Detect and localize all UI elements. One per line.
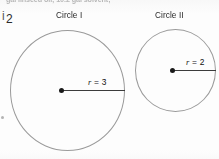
- circle-1-radius-equals: =: [91, 77, 101, 87]
- circle-2-caption: Circle II: [155, 11, 184, 20]
- circle-1-radius-label: r = 3: [88, 77, 106, 87]
- clipped-header-text: gal linseed oil; 10.2 gal solvent;: [6, 0, 110, 4]
- circle-2-radius-label: r = 2: [186, 57, 204, 67]
- circle-2-radius-equals: =: [189, 57, 199, 67]
- circle-1-caption: Circle I: [56, 11, 82, 20]
- circle-2-radius-line: [173, 70, 216, 71]
- circle-2-center-dot: [170, 68, 175, 73]
- circle-2-radius-value: 2: [200, 57, 205, 67]
- margin-item-number: i2: [2, 9, 13, 26]
- circle-1-radius-value: 3: [102, 77, 107, 87]
- clipped-header-text-strip: gal linseed oil; 10.2 gal solvent;: [0, 0, 219, 7]
- figure-page: gal linseed oil; 10.2 gal solvent; i2 Ci…: [0, 0, 219, 159]
- margin-tick-mark: [1, 116, 4, 119]
- circle-1-radius-line: [62, 90, 125, 91]
- circle-1-center-dot: [59, 88, 64, 93]
- margin-item-number-value: 2: [6, 12, 13, 26]
